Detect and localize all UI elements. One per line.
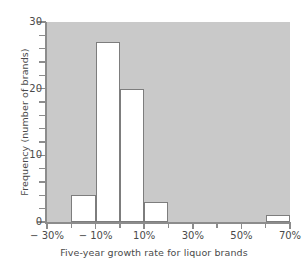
y-axis-line (45, 22, 47, 223)
histogram-figure: 0102030 − 30%− 10%10%30%50%70% Frequency… (0, 0, 308, 267)
x-axis-tick-label: 30% (169, 230, 217, 242)
histogram-bar (71, 195, 95, 222)
x-axis-tick-label: 70% (266, 230, 308, 242)
x-axis-tick-minor (71, 223, 73, 228)
x-axis-tick-minor (216, 223, 218, 228)
x-axis-tick-label: 50% (217, 230, 265, 242)
x-axis-tick-major (46, 223, 48, 229)
histogram-bar (120, 89, 144, 222)
histogram-bar (144, 202, 168, 222)
x-axis-tick-labels: − 30%− 10%10%30%50%70% (0, 230, 308, 244)
x-axis-tick-major (289, 223, 291, 229)
x-axis-tick-label: − 30% (23, 230, 71, 242)
x-axis-tick-label: − 10% (72, 230, 120, 242)
histogram-bar (96, 42, 120, 222)
x-axis-tick-label: 10% (120, 230, 168, 242)
x-axis-tick-major (241, 223, 243, 229)
x-axis-tick-major (95, 223, 97, 229)
x-axis-tick-minor (265, 223, 267, 228)
x-axis-tick-minor (119, 223, 121, 228)
x-axis-title: Five-year growth rate for liquor brands (0, 247, 308, 258)
y-axis-title: Frequency (number of brands) (18, 22, 32, 222)
x-axis-tick-major (192, 223, 194, 229)
plot-area-background (47, 22, 290, 222)
x-axis-tick-major (143, 223, 145, 229)
histogram-bar (266, 215, 290, 222)
x-axis-tick-minor (168, 223, 170, 228)
